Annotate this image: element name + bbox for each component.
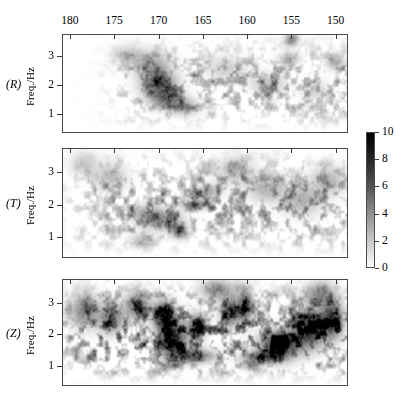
x-tick-mark <box>70 34 71 39</box>
x-tick-label: 180 <box>50 15 90 27</box>
y-tick-label: 1 <box>28 231 54 243</box>
y-tick-mark <box>57 303 62 304</box>
y-tick-mark <box>57 205 62 206</box>
x-tick-mark <box>291 148 292 153</box>
y-tick-mark <box>57 114 62 115</box>
y-axis-label: Freq./Hz <box>24 67 36 106</box>
colorbar-tick-mark <box>375 214 379 215</box>
x-tick-mark <box>114 279 115 284</box>
x-tick-mark <box>203 34 204 39</box>
colorbar: 1086420 <box>366 132 375 268</box>
colorbar-tick-label: 2 <box>382 235 388 247</box>
x-tick-mark <box>159 279 160 284</box>
x-tick-label: 175 <box>94 15 134 27</box>
y-tick-label: 3 <box>28 297 54 309</box>
x-tick-mark <box>291 279 292 284</box>
y-tick-mark <box>57 85 62 86</box>
x-tick-mark <box>336 148 337 153</box>
colorbar-tick-label: 8 <box>382 153 388 165</box>
x-tick-label: 165 <box>183 15 223 27</box>
colorbar-tick-label: 4 <box>382 208 388 220</box>
y-tick-mark <box>57 366 62 367</box>
colorbar-tick-mark <box>375 159 379 160</box>
spectrogram-figure: 180175170165160155150 321Freq./Hz(R)321F… <box>0 0 410 404</box>
spectrogram-image <box>63 280 348 386</box>
colorbar-tick-mark <box>375 132 379 133</box>
x-tick-mark <box>114 148 115 153</box>
x-tick-mark <box>336 34 337 39</box>
x-tick-mark <box>247 148 248 153</box>
colorbar-tick-label: 10 <box>382 126 394 138</box>
y-tick-mark <box>57 237 62 238</box>
y-tick-mark <box>57 56 62 57</box>
colorbar-tick-label: 6 <box>382 180 388 192</box>
y-axis-label: Freq./Hz <box>24 316 36 355</box>
x-tick-mark <box>159 34 160 39</box>
spectrogram-panel-r: 321Freq./Hz(R) <box>62 34 348 133</box>
x-tick-label: 170 <box>139 15 179 27</box>
x-tick-mark <box>70 148 71 153</box>
colorbar-gradient <box>366 132 375 268</box>
y-tick-label: 3 <box>28 166 54 178</box>
colorbar-tick-label: 0 <box>382 262 388 274</box>
y-tick-label: 3 <box>28 50 54 62</box>
spectrogram-image <box>63 149 348 258</box>
panel-frame <box>62 148 348 258</box>
panel-label: (Z) <box>6 326 21 341</box>
colorbar-tick-mark <box>375 241 379 242</box>
x-tick-mark <box>203 148 204 153</box>
spectrogram-panel-t: 321Freq./Hz(T) <box>62 148 348 258</box>
x-tick-mark <box>247 34 248 39</box>
x-tick-mark <box>203 279 204 284</box>
x-tick-label: 150 <box>316 15 356 27</box>
x-tick-mark <box>247 279 248 284</box>
panel-frame <box>62 279 348 386</box>
x-tick-mark <box>291 34 292 39</box>
colorbar-tick-mark <box>375 186 379 187</box>
spectrogram-panel-z: 321Freq./Hz(Z) <box>62 279 348 386</box>
x-tick-label: 155 <box>271 15 311 27</box>
panel-label: (R) <box>6 77 21 92</box>
x-tick-label: 160 <box>227 15 267 27</box>
y-tick-mark <box>57 334 62 335</box>
x-tick-mark <box>159 148 160 153</box>
y-tick-label: 1 <box>28 360 54 372</box>
panel-frame <box>62 34 348 133</box>
y-tick-label: 1 <box>28 108 54 120</box>
spectrogram-image <box>63 35 348 133</box>
x-tick-mark <box>70 279 71 284</box>
panel-label: (T) <box>6 196 21 211</box>
colorbar-tick-mark <box>375 268 379 269</box>
y-axis-label: Freq./Hz <box>24 186 36 225</box>
y-tick-mark <box>57 172 62 173</box>
x-tick-mark <box>336 279 337 284</box>
x-tick-mark <box>114 34 115 39</box>
